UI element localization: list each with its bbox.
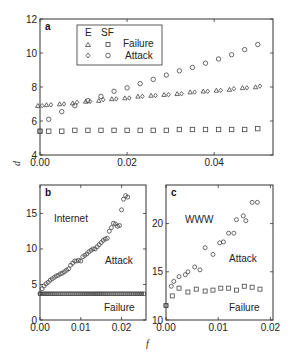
circle-marker-icon [203,246,207,250]
legend-header-sf: SF [101,27,114,38]
panel-b-internet-label: Internet [54,213,88,224]
triangle-marker-icon [36,104,40,108]
square-marker-icon [151,128,155,132]
circle-marker-icon [177,275,181,279]
panel-b: 0.000.010.02051015 b Internet Attack Fai… [26,185,146,333]
diamond-marker-icon [245,86,249,90]
legend-failure-label: Failure [123,38,154,49]
square-marker-icon [216,127,220,131]
panel-a: 0.000.020.044681012 a E SF Failure Attac… [26,14,273,169]
triangle-marker-icon [149,93,153,97]
square-marker-icon [60,129,64,133]
diamond-marker-icon [40,104,44,108]
square-marker-icon [61,292,64,295]
square-marker-icon [100,292,103,295]
square-marker-icon [51,292,54,295]
square-marker-icon [134,292,137,295]
square-marker-icon [59,292,62,295]
triangle-marker-icon [162,92,166,96]
square-marker-icon [128,292,131,295]
y-tick-label: 10 [26,243,38,254]
triangle-marker-icon [97,98,101,102]
y-tick-label: 0 [31,315,37,326]
square-marker-icon [55,292,58,295]
circle-marker-icon [109,226,113,230]
square-marker-icon [140,292,143,295]
square-marker-icon [190,127,194,131]
y-tick-label: 8 [31,82,37,93]
diamond-marker-icon [167,92,171,96]
y-tick-label: 5 [31,279,37,290]
panel-c-frame [166,185,273,320]
panel-c: 0.000.010.02101520 c WWW Attack Failure [152,185,281,333]
square-marker-icon [85,292,88,295]
square-marker-icon [91,292,94,295]
y-tick-label: 10 [26,48,38,59]
circle-marker-icon [216,57,220,61]
square-marker-icon [186,290,190,294]
panel-b-label: b [45,187,51,198]
diamond-marker-icon [154,93,158,97]
circle-marker-icon [232,231,236,235]
circle-marker-icon [242,47,246,51]
square-marker-icon [118,292,121,295]
square-marker-icon [104,292,107,295]
square-marker-icon [142,292,145,295]
circle-marker-icon [241,214,245,218]
square-marker-icon [63,292,66,295]
circle-marker-icon [229,53,233,57]
square-marker-icon [110,292,113,295]
square-marker-icon [219,286,223,290]
circle-marker-icon [255,200,259,204]
square-marker-icon [108,292,111,295]
panel-c-attack-label: Attack [229,253,258,264]
circle-marker-icon [186,270,190,274]
square-marker-icon [42,292,45,295]
x-tick-label: 0.02 [261,322,281,333]
circle-marker-icon [198,268,202,272]
y-tick-label: 10 [152,315,164,326]
square-marker-icon [57,292,60,295]
y-tick-label: 4 [31,150,37,161]
triangle-marker-icon [201,89,205,93]
square-marker-icon [102,292,105,295]
panel-a-legend: E SF Failure Attack [77,25,162,65]
circle-marker-icon [112,89,116,93]
figure: 0.000.020.044681012 a E SF Failure Attac… [0,0,290,356]
square-marker-icon [67,292,70,295]
y-tick-label: 6 [31,116,37,127]
square-marker-icon [73,292,76,295]
square-marker-icon [258,287,262,291]
square-marker-icon [116,292,119,295]
diamond-marker-icon [114,97,118,101]
square-marker-icon [164,128,168,132]
square-marker-icon [234,288,238,292]
panel-b-frame [40,185,146,320]
triangle-marker-icon [123,96,127,100]
triangle-marker-icon [240,86,244,90]
triangle-marker-icon [136,94,140,98]
circle-marker-icon [125,86,129,90]
y-axis-label: d [11,160,22,166]
square-marker-icon [45,292,48,295]
diamond-marker-icon [193,90,197,94]
circle-marker-icon [120,208,124,212]
square-marker-icon [47,292,50,295]
y-tick-label: 15 [152,266,164,277]
square-marker-icon [125,128,129,132]
legend-attack-label: Attack [125,50,154,61]
x-axis-label: f [146,338,150,349]
square-marker-icon [112,292,115,295]
circle-marker-icon [99,94,103,98]
triangle-marker-icon [227,87,231,91]
circle-marker-icon [169,284,173,288]
diamond-marker-icon [206,89,210,93]
panel-c-ticks: 0.000.010.02101520 [152,185,281,333]
square-marker-icon [98,292,101,295]
square-marker-icon [81,292,84,295]
x-tick-label: 0.02 [112,322,132,333]
circle-marker-icon [203,61,207,65]
circle-marker-icon [227,231,231,235]
diamond-marker-icon [62,102,66,106]
circle-marker-icon [256,42,260,46]
